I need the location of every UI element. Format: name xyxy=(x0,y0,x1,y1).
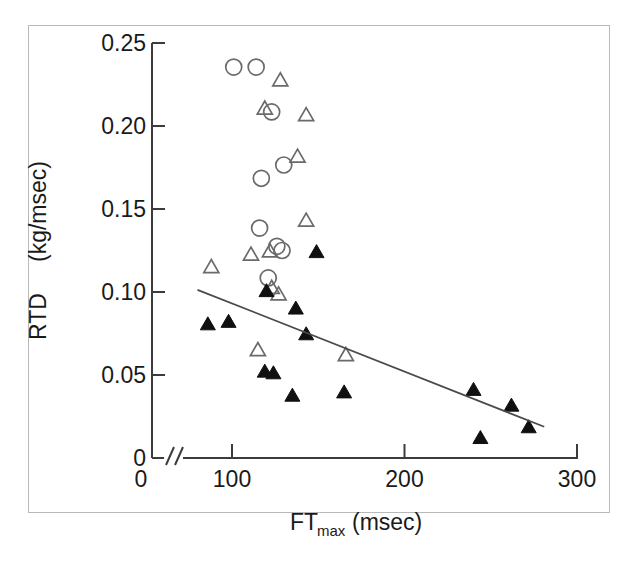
y-tick-labels: 00.050.100.150.200.25 xyxy=(101,30,146,471)
series-filled-triangle xyxy=(200,245,536,444)
y-tick-label: 0.10 xyxy=(101,279,146,305)
data-point-filled-triangle xyxy=(285,388,300,401)
data-point-open-circle xyxy=(276,157,292,173)
data-point-open-triangle xyxy=(204,260,219,273)
data-point-filled-triangle xyxy=(288,301,303,314)
data-point-open-circle xyxy=(253,170,269,186)
x-axis-title: FT max (msec) xyxy=(290,509,422,539)
x-tick-label: 200 xyxy=(385,466,423,492)
x-axis-title-unit: (msec) xyxy=(352,509,422,535)
data-point-filled-triangle xyxy=(521,420,536,433)
data-point-open-triangle xyxy=(273,73,288,86)
y-tick-label: 0.05 xyxy=(101,362,146,388)
y-tick-marks xyxy=(152,43,165,375)
data-point-filled-triangle xyxy=(337,385,352,398)
data-point-open-triangle xyxy=(338,348,353,361)
data-point-filled-triangle xyxy=(309,245,324,258)
scatter-plot: 00.050.100.150.200.25 0100200300 RTD (kg… xyxy=(0,0,639,571)
x-tick-label: 300 xyxy=(558,466,596,492)
data-point-open-triangle xyxy=(290,149,305,162)
y-tick-label: 0.15 xyxy=(101,196,146,222)
data-point-filled-triangle xyxy=(466,382,481,395)
y-axis-title: RTD (kg/msec) xyxy=(25,161,51,340)
x-tick-label-zero: 0 xyxy=(135,466,148,492)
y-tick-label: 0.25 xyxy=(101,30,146,56)
data-point-open-triangle xyxy=(250,343,265,356)
x-axis-title-main: FT xyxy=(290,509,318,535)
series-open-circle xyxy=(226,59,292,286)
regression-line xyxy=(198,290,545,427)
y-axis-title-main: RTD xyxy=(25,293,51,340)
data-point-open-circle xyxy=(226,59,242,75)
data-point-filled-triangle xyxy=(221,314,236,327)
axis-break-marks xyxy=(166,447,183,465)
data-point-filled-triangle xyxy=(504,398,519,411)
data-point-open-triangle xyxy=(299,108,314,121)
data-point-filled-triangle xyxy=(473,431,488,444)
x-axis-title-subscript: max xyxy=(317,522,346,539)
x-tick-marks xyxy=(232,444,577,458)
data-point-open-circle xyxy=(252,220,268,236)
y-axis-title-unit: (kg/msec) xyxy=(25,161,51,262)
data-point-open-circle xyxy=(248,59,264,75)
x-tick-label: 100 xyxy=(213,466,251,492)
data-points-layer xyxy=(200,59,536,443)
y-tick-label: 0.20 xyxy=(101,113,146,139)
data-point-open-triangle xyxy=(243,247,258,260)
data-point-filled-triangle xyxy=(200,317,215,330)
x-tick-labels: 0100200300 xyxy=(135,466,597,492)
data-point-open-triangle xyxy=(299,213,314,226)
